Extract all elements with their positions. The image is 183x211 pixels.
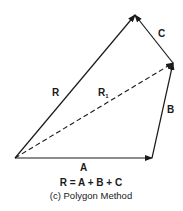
- vector-r1-dashed: [15, 63, 173, 158]
- label-a: A: [80, 162, 87, 173]
- vector-c: [135, 15, 173, 63]
- polygon-method-diagram: A B C R R1 R = A + B + C (c) Polygon Met…: [0, 0, 183, 211]
- label-c: C: [158, 28, 165, 39]
- vector-r: [15, 15, 135, 158]
- vector-diagram-svg: A B C R R1 R = A + B + C (c) Polygon Met…: [0, 0, 183, 211]
- caption: (c) Polygon Method: [50, 190, 132, 201]
- label-b: B: [167, 104, 174, 115]
- equation: R = A + B + C: [60, 177, 122, 188]
- label-r1: R1: [98, 87, 109, 99]
- label-r: R: [52, 87, 60, 98]
